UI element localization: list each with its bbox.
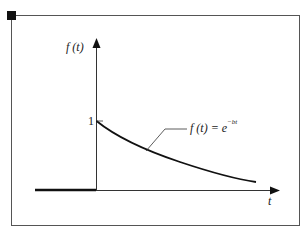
y-axis-label: f (t) <box>66 40 84 55</box>
frame <box>12 16 300 226</box>
diagram-canvas <box>0 0 306 233</box>
formula-label: f (t) = e−bt <box>190 121 237 136</box>
corner-marker <box>7 11 16 20</box>
x-axis-label: t <box>268 194 271 209</box>
x-axis-arrow-icon <box>270 187 280 195</box>
tick-label-one: 1 <box>88 114 94 129</box>
formula-exponent: −bt <box>227 118 237 126</box>
formula-base: f (t) = e <box>190 121 227 135</box>
formula-leader <box>146 129 187 151</box>
y-axis-arrow-icon <box>93 38 101 48</box>
